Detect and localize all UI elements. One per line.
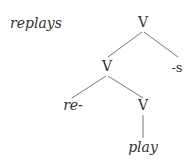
suffix-node: -s (171, 60, 182, 75)
edge-root-suffix (144, 32, 178, 57)
edge-root-left (108, 32, 142, 57)
edge-left-base (108, 76, 143, 98)
morphology-tree: replays V V -s re- V play (0, 0, 192, 161)
root-node: V (137, 14, 149, 30)
left-node: V (101, 58, 113, 74)
prefix-node: re- (63, 97, 83, 113)
base-word: play (128, 139, 159, 155)
word-label: replays (10, 15, 62, 31)
edge-left-prefix (72, 76, 106, 98)
base-node: V (137, 97, 149, 113)
